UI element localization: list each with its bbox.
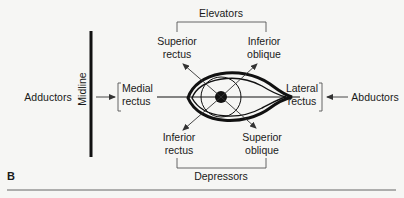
svg-text:Superior: Superior xyxy=(242,131,282,143)
depressors-bracket xyxy=(177,158,266,168)
abductors-label: Abductors xyxy=(351,91,398,103)
superior-oblique-label: Superior oblique xyxy=(242,131,282,156)
inferior-rectus-label: Inferior rectus xyxy=(163,131,196,156)
elevators-group: Elevators xyxy=(177,7,266,32)
panel-label: B xyxy=(7,170,15,182)
svg-text:rectus: rectus xyxy=(288,95,317,107)
eye-muscle-diagram: Elevators Superior rectus Inferior obliq… xyxy=(0,0,404,198)
svg-text:Lateral: Lateral xyxy=(286,82,318,94)
inferior-oblique-arrow xyxy=(221,64,257,97)
svg-text:Medial: Medial xyxy=(122,82,153,94)
lateral-rectus-bracket xyxy=(319,83,322,111)
elevators-label: Elevators xyxy=(199,7,243,19)
svg-text:Superior: Superior xyxy=(157,35,197,47)
depressors-label: Depressors xyxy=(194,170,248,182)
inferior-oblique-label: Inferior oblique xyxy=(247,35,281,60)
svg-text:rectus: rectus xyxy=(122,95,151,107)
svg-text:Inferior: Inferior xyxy=(163,131,196,143)
midline-label: Midline xyxy=(76,72,88,105)
svg-text:oblique: oblique xyxy=(247,48,281,60)
medial-rectus-bracket xyxy=(118,83,121,111)
lateral-rectus-label: Lateral rectus xyxy=(286,82,318,107)
svg-text:rectus: rectus xyxy=(165,144,194,156)
svg-text:rectus: rectus xyxy=(163,48,192,60)
superior-rectus-label: Superior rectus xyxy=(157,35,197,60)
elevators-bracket xyxy=(177,22,266,32)
medial-rectus-label: Medial rectus xyxy=(122,82,153,107)
svg-text:Inferior: Inferior xyxy=(248,35,281,47)
adductors-label: Adductors xyxy=(24,91,71,103)
svg-text:oblique: oblique xyxy=(245,144,279,156)
depressors-group: Depressors xyxy=(177,158,266,182)
